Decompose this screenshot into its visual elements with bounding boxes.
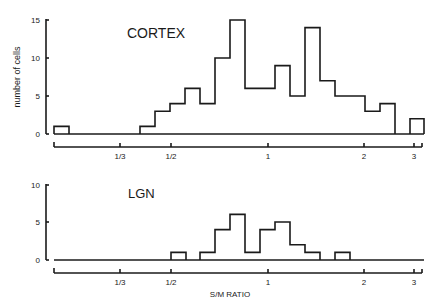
- lgn-histogram: [171, 214, 350, 260]
- lgn-xtick-2: 2: [362, 278, 367, 287]
- cortex-xtick-3: 3: [412, 152, 417, 161]
- cortex-ytick-10: 10: [31, 54, 40, 63]
- cortex-xtick-1: 1: [266, 152, 271, 161]
- lgn-xtick-1: 1: [266, 278, 271, 287]
- cortex-histogram: [54, 20, 424, 134]
- cortex-ytick-5: 5: [36, 92, 41, 101]
- lgn-xtick-1-2: 1/2: [165, 278, 177, 287]
- lgn-xtick-1-3: 1/3: [114, 278, 126, 287]
- lgn-panel: [46, 184, 424, 273]
- y-axis-label: number of cells: [12, 46, 22, 108]
- lgn-ytick-10: 10: [31, 181, 40, 190]
- histogram-figure: 15 10 5 0 CORTEX number of cells 1/3 1/2…: [0, 0, 437, 301]
- cortex-xtick-1-3: 1/3: [114, 152, 126, 161]
- lgn-ytick-0: 0: [36, 256, 41, 265]
- lgn-title: LGN: [128, 186, 155, 201]
- lgn-xtick-3: 3: [412, 278, 417, 287]
- lgn-ytick-5: 5: [36, 218, 41, 227]
- x-axis-label: S/M RATIO: [210, 290, 250, 299]
- cortex-xtick-2: 2: [362, 152, 367, 161]
- cortex-xtick-1-2: 1/2: [165, 152, 177, 161]
- cortex-title: CORTEX: [127, 25, 186, 41]
- lgn-labels: 10 5 0 LGN 1/3 1/2 1 2 3 S/M RATIO: [31, 181, 417, 299]
- cortex-ytick-15: 15: [31, 16, 40, 25]
- cortex-ytick-0: 0: [36, 130, 41, 139]
- cortex-panel: [46, 19, 424, 147]
